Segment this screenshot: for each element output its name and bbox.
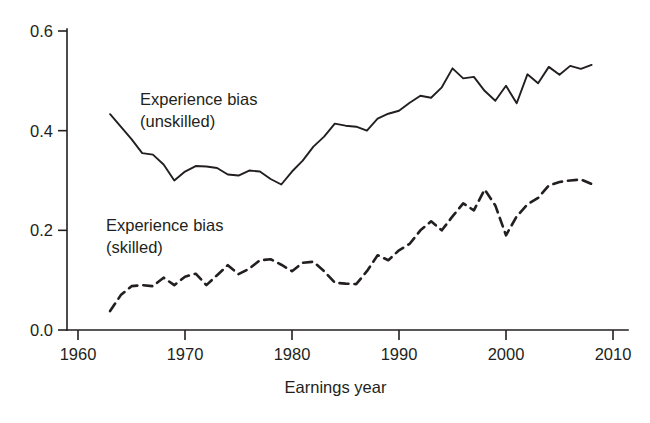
x-tick-label: 1990 bbox=[381, 345, 418, 363]
x-tick-label: 2010 bbox=[595, 345, 632, 363]
annotation-line: (unskilled) bbox=[140, 112, 215, 130]
annotation-line: Experience bias bbox=[106, 216, 223, 234]
series-line-skilled bbox=[110, 180, 591, 312]
annotation-skilled-label: Experience bias(skilled) bbox=[106, 216, 223, 256]
line-chart: 0.00.20.40.6 196019701980199020002010 Ex… bbox=[0, 0, 650, 423]
annotation-line: (skilled) bbox=[106, 238, 163, 256]
y-tick-label: 0.0 bbox=[30, 321, 53, 339]
chart-container: 0.00.20.40.6 196019701980199020002010 Ex… bbox=[0, 0, 650, 423]
y-tick-label: 0.6 bbox=[30, 22, 53, 40]
x-axis-ticks: 196019701980199020002010 bbox=[60, 330, 632, 363]
x-tick-label: 1970 bbox=[167, 345, 204, 363]
annotations-group: Experience bias(unskilled)Experience bia… bbox=[106, 90, 257, 256]
annotation-unskilled-label: Experience bias(unskilled) bbox=[140, 90, 257, 130]
x-tick-label: 1980 bbox=[274, 345, 311, 363]
y-tick-label: 0.4 bbox=[30, 122, 53, 140]
y-tick-label: 0.2 bbox=[30, 221, 53, 239]
x-axis-title: Earnings year bbox=[285, 378, 387, 396]
y-axis-ticks: 0.00.20.40.6 bbox=[30, 22, 67, 339]
x-tick-label: 2000 bbox=[488, 345, 525, 363]
annotation-line: Experience bias bbox=[140, 90, 257, 108]
x-tick-label: 1960 bbox=[60, 345, 97, 363]
